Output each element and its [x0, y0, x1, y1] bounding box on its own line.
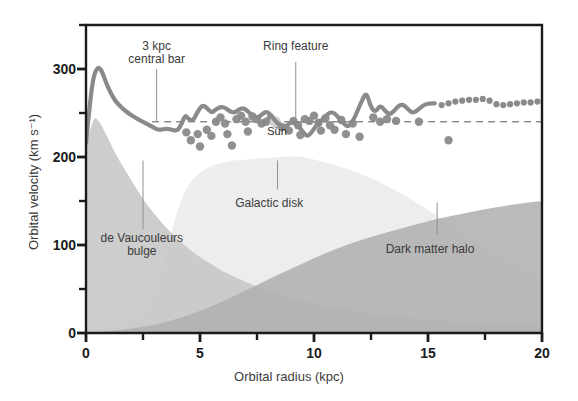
data-point: [182, 128, 190, 136]
extrapolation-dot: [528, 99, 534, 105]
figure-root: 010020030005101520Orbital radius (kpc)Or…: [0, 0, 578, 401]
extrapolation-dot: [500, 102, 506, 108]
extrapolation-dot: [466, 97, 472, 103]
data-point: [194, 130, 202, 138]
data-point: [330, 126, 338, 134]
data-point: [383, 115, 391, 123]
data-point: [196, 142, 204, 150]
x-tick-label-15: 15: [420, 345, 436, 361]
data-point: [355, 133, 363, 141]
extrapolation-dot: [493, 101, 499, 107]
extrapolation-dot: [439, 102, 445, 108]
x-tick-label-0: 0: [82, 345, 90, 361]
extrapolation-dot: [514, 100, 520, 106]
data-layer: [86, 68, 542, 151]
y-tick-label-100: 100: [40, 237, 76, 253]
data-point: [187, 136, 195, 144]
data-point: [207, 132, 215, 140]
x-tick-label-10: 10: [306, 345, 322, 361]
y-tick-label-200: 200: [40, 149, 76, 165]
x-tick-label-20: 20: [534, 345, 550, 361]
data-point: [392, 117, 400, 125]
x-tick-label-5: 5: [196, 345, 204, 361]
rotation-curve-chart: [0, 0, 578, 401]
data-point: [317, 126, 325, 134]
data-point: [241, 118, 249, 126]
data-point: [228, 141, 236, 149]
extrapolation-dot: [534, 98, 540, 104]
data-point: [223, 130, 231, 138]
data-point: [342, 130, 350, 138]
extrapolation-dot: [486, 98, 492, 104]
y-axis-title: Orbital velocity (km s⁻¹): [26, 114, 41, 250]
extrapolation-dot: [452, 98, 458, 104]
extrapolation-dot: [459, 98, 465, 104]
data-point: [310, 111, 318, 119]
y-tick-label-300: 300: [40, 61, 76, 77]
x-axis-title: Orbital radius (kpc): [0, 369, 578, 384]
component-areas: [86, 118, 542, 333]
data-point: [221, 119, 229, 127]
extrapolation-dot: [507, 101, 513, 107]
extrapolation-dot: [480, 96, 486, 102]
data-point: [444, 136, 452, 144]
extrapolation-dot: [445, 100, 451, 106]
extrapolation-dot: [521, 99, 527, 105]
y-tick-label-0: 0: [40, 325, 76, 341]
data-point: [244, 127, 252, 135]
observed-rotation-curve: [86, 68, 435, 143]
extrapolation-dot: [473, 97, 479, 103]
data-point: [415, 118, 423, 126]
sun-label: Sun: [267, 125, 287, 137]
